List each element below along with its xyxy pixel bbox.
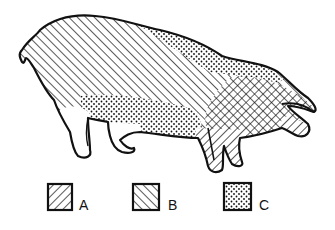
legend-item-a: A — [48, 184, 89, 213]
legend-label-b: B — [168, 197, 177, 213]
legend-swatch-c — [224, 183, 251, 210]
legend-swatch-b — [133, 184, 159, 210]
legend-label-c: C — [259, 197, 269, 213]
legend-swatch-a — [48, 184, 72, 210]
pig-diagram: A B C — [0, 0, 335, 230]
legend: A B C — [48, 183, 269, 213]
legend-item-c: C — [224, 183, 269, 213]
legend-item-b: B — [133, 184, 177, 213]
legend-label-a: A — [79, 197, 89, 213]
pig-body — [0, 0, 335, 200]
